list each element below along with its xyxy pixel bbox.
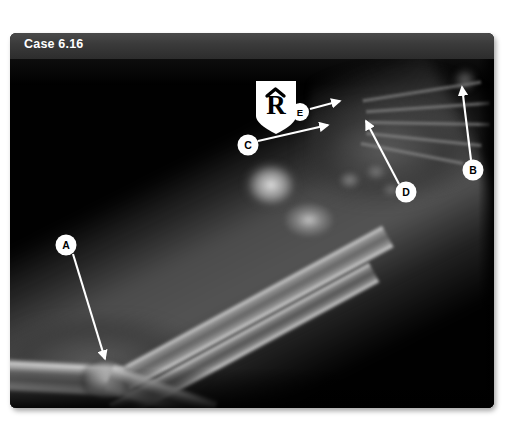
radiograph-figure-panel: Case 6.16 bbox=[10, 33, 494, 408]
svg-text:R: R bbox=[266, 90, 286, 120]
annotation-label-a: A bbox=[62, 239, 70, 251]
annotation-label-b: B bbox=[469, 164, 477, 176]
film-background-wash bbox=[10, 59, 494, 85]
wrist-soft-tissue-shadow bbox=[296, 99, 486, 219]
distal-radius-metaphysis bbox=[242, 159, 300, 211]
olecranon-elbow-joint bbox=[78, 355, 134, 405]
metacarpal-bone bbox=[366, 101, 490, 115]
metacarpal-bone bbox=[366, 131, 482, 148]
film-edge-vignette bbox=[10, 368, 494, 408]
annotation-marker-b[interactable]: B bbox=[462, 87, 484, 181]
right-side-marker: R bbox=[255, 80, 297, 135]
radiograph-image: R A B bbox=[10, 59, 494, 408]
metacarpal-bone bbox=[368, 120, 490, 127]
ulna-shaft bbox=[108, 262, 380, 408]
carpal-bones bbox=[332, 155, 412, 211]
distal-humerus bbox=[10, 358, 123, 399]
film-exposure-artifact bbox=[448, 63, 482, 97]
forearm-soft-tissue-shadow bbox=[10, 59, 494, 408]
annotation-label-e: E bbox=[297, 107, 303, 118]
annotation-marker-a[interactable]: A bbox=[56, 235, 106, 360]
film-edge-vignette bbox=[478, 59, 494, 408]
elbow-soft-tissue-shadow bbox=[10, 314, 210, 408]
case-number-label: Case 6.16 bbox=[24, 37, 83, 51]
figure-caption-bar: Case 6.16 bbox=[10, 33, 494, 59]
figure-root: Case 6.16 bbox=[0, 0, 512, 440]
annotation-marker-d[interactable]: D bbox=[366, 121, 417, 203]
annotation-label-d: D bbox=[402, 186, 410, 198]
annotation-marker-e[interactable]: E bbox=[291, 101, 340, 121]
annotation-overlay: A B C D bbox=[10, 59, 494, 408]
metacarpal-bone bbox=[360, 141, 463, 166]
radius-shaft bbox=[118, 225, 394, 391]
distal-ulna bbox=[284, 201, 334, 239]
annotation-label-c: C bbox=[244, 139, 252, 151]
proximal-ulna bbox=[104, 363, 218, 408]
